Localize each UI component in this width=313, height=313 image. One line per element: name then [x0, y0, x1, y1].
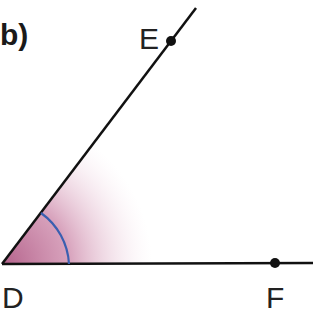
ray-df	[2, 263, 313, 264]
part-label: b)	[0, 20, 28, 50]
point-f	[270, 258, 280, 268]
label-e: E	[139, 24, 159, 54]
point-e	[166, 36, 176, 46]
label-f: F	[266, 283, 284, 313]
label-d: D	[2, 283, 24, 313]
